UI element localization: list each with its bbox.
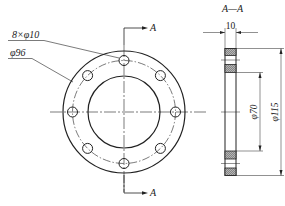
section-arrow-bottom [142,191,148,195]
section-view [203,28,284,176]
bolt-circle-leader [8,59,73,83]
section-line-bottom [124,175,145,193]
bolt-hole [155,71,165,81]
bore-arrow-bottom [259,146,262,152]
front-view [8,26,206,195]
bolt-hole [83,143,93,153]
hatch-top-1 [225,49,236,56]
hatch-bottom-1 [225,151,236,159]
thickness-arrow-left [220,31,225,34]
bolt-holes-label: 8×φ10 [12,29,39,40]
bore-diameter-label: φ70 [249,104,259,119]
hatch-top-2 [225,65,236,73]
section-view-title: A—A [221,3,244,14]
section-marker-bottom: A [149,187,157,198]
outer-arrow-top [280,49,283,55]
bolt-circle-label: φ96 [10,47,26,58]
bore-arrow-top [259,73,262,79]
section-arrow-top [142,26,148,30]
bolt-hole [155,143,165,153]
section-marker-top: A [149,22,157,33]
thickness-arrow-right [236,31,241,34]
hatch-bottom-2 [225,168,236,176]
outer-arrow-bottom [280,170,283,176]
section-line-top [124,28,145,45]
bolt-hole [83,71,93,81]
flange-drawing: 8×φ10 φ96 A A A—A [0,0,285,206]
outer-diameter-label: φ115 [270,102,280,121]
thickness-label: 10 [226,21,236,31]
